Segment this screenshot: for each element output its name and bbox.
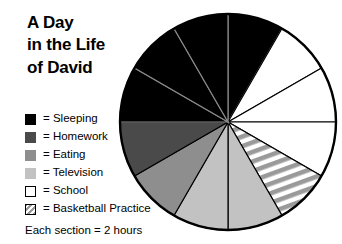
legend-swatch-icon [25, 132, 36, 143]
legend-swatch-hatched-icon [25, 204, 36, 215]
legend-swatch-icon [25, 168, 36, 179]
legend-label: = School [43, 185, 88, 197]
legend-label: = Eating [43, 149, 86, 161]
legend-swatch-icon [25, 114, 36, 125]
legend-label: = Homework [43, 131, 108, 143]
legend-label: = Sleeping [43, 113, 98, 125]
legend-swatch-icon [25, 150, 36, 161]
legend-swatch-icon [25, 186, 36, 197]
pie-chart-figure: A Day in the Life of David = Sleeping = … [0, 0, 342, 244]
pie-chart [118, 7, 340, 239]
pie-chart-svg [118, 7, 340, 239]
legend-label: = Television [43, 167, 103, 179]
